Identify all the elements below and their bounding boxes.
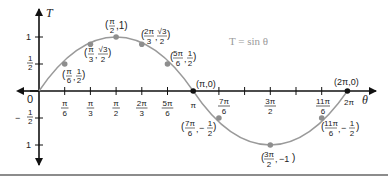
- svg-text:2: 2: [268, 107, 273, 116]
- svg-text:2π: 2π: [344, 98, 354, 107]
- svg-text:2: 2: [160, 37, 165, 46]
- svg-text:−: −: [199, 123, 204, 133]
- svg-text:1: 1: [26, 140, 31, 150]
- svg-text:π: π: [88, 45, 94, 54]
- svg-text:6: 6: [329, 129, 334, 138]
- svg-text:): ): [292, 152, 295, 163]
- y-axis-bottom-arrow-icon: [35, 158, 43, 166]
- svg-text:5π: 5π: [163, 99, 173, 108]
- svg-text:,: ,: [73, 72, 76, 82]
- annotation-2pi: (2π,0): [334, 77, 359, 87]
- svg-text:6: 6: [188, 129, 193, 138]
- annotation-pi-6: ( π6 , 12 ): [62, 67, 85, 85]
- bottom-divider: [0, 174, 388, 176]
- svg-text:3π: 3π: [264, 150, 274, 159]
- svg-text:11π: 11π: [324, 119, 338, 128]
- svg-text:π: π: [109, 17, 115, 26]
- x-axis-label: θ: [362, 93, 368, 107]
- svg-text:2π: 2π: [144, 27, 154, 36]
- svg-text:): ): [82, 69, 85, 80]
- svg-text:6: 6: [176, 59, 181, 68]
- svg-text:,: ,: [275, 154, 278, 164]
- annotation-5pi-6: ( 5π6 , 12 ): [170, 49, 196, 68]
- svg-text:2: 2: [267, 160, 272, 169]
- annotation-pi-3: ( π3 , √32 ): [84, 45, 111, 64]
- svg-text:π: π: [66, 67, 72, 76]
- svg-text:3: 3: [89, 55, 94, 64]
- svg-text:2: 2: [28, 117, 33, 126]
- svg-text:π: π: [113, 99, 119, 108]
- svg-text:√3: √3: [158, 27, 167, 36]
- svg-text:2: 2: [350, 129, 355, 138]
- svg-text:2π: 2π: [137, 99, 147, 108]
- origin-label: 0: [27, 93, 33, 105]
- svg-text:,: ,: [184, 54, 187, 64]
- svg-text:2: 2: [101, 55, 106, 64]
- svg-text:): ): [167, 29, 170, 40]
- svg-text:,: ,: [95, 50, 98, 60]
- annotation-11pi-6: ( 11π6 , − 12 ): [321, 119, 359, 138]
- svg-text:6: 6: [67, 76, 72, 85]
- svg-text:5π: 5π: [173, 49, 183, 58]
- svg-text:,1): ,1): [116, 20, 128, 31]
- x-tick-labels: π6 π3 π2 2π3 5π6 π 7π6 3π2 11π6 2π: [61, 97, 354, 118]
- svg-text:1: 1: [28, 108, 33, 117]
- svg-text:7π: 7π: [185, 119, 195, 128]
- svg-text:3: 3: [140, 109, 145, 118]
- svg-text:3: 3: [88, 109, 93, 118]
- svg-text:2: 2: [28, 63, 33, 72]
- svg-text:): ): [356, 121, 359, 132]
- annotation-3pi-2: ( 3π2 , −1 ): [261, 150, 295, 169]
- svg-text:−: −: [341, 123, 346, 133]
- svg-text:): ): [213, 121, 216, 132]
- y-axis-label: T: [46, 6, 54, 20]
- svg-text:6: 6: [321, 107, 326, 116]
- svg-text:1: 1: [350, 119, 355, 128]
- svg-text:√3: √3: [99, 45, 108, 54]
- svg-text:1: 1: [28, 54, 33, 63]
- svg-text:6: 6: [165, 109, 170, 118]
- svg-text:π: π: [62, 99, 68, 108]
- svg-text:7π: 7π: [219, 97, 229, 106]
- svg-text:6: 6: [62, 109, 67, 118]
- svg-text:3π: 3π: [265, 97, 275, 106]
- svg-text:π: π: [88, 99, 94, 108]
- sine-chart: T θ 0 T = sin θ 1 1 2 − 1 2 1 π6 π3 π2 2…: [0, 0, 388, 177]
- svg-text:1: 1: [26, 32, 31, 42]
- equation-label: T = sin θ: [229, 35, 268, 47]
- svg-text:6: 6: [222, 107, 227, 116]
- svg-text:3: 3: [147, 37, 152, 46]
- svg-text:−1: −1: [279, 154, 289, 164]
- svg-text:−: −: [15, 113, 20, 123]
- annotation-pi-2: ( π2 ,1): [105, 17, 128, 35]
- annotation-pi: (π,0): [196, 79, 216, 89]
- point-annotations: ( π6 , 12 ) ( π3 , √32 ) ( π2 ,1) ( 2π3 …: [62, 17, 359, 169]
- svg-text:2: 2: [114, 109, 119, 118]
- svg-text:11π: 11π: [316, 97, 330, 106]
- svg-text:π: π: [190, 101, 196, 110]
- svg-text:): ): [108, 47, 111, 58]
- svg-text:2: 2: [110, 26, 115, 35]
- svg-text:): ): [193, 51, 196, 62]
- annotation-7pi-6: ( 7π6 , − 12 ): [181, 119, 216, 138]
- annotation-2pi-3: ( 2π3 , √32 ): [141, 27, 170, 46]
